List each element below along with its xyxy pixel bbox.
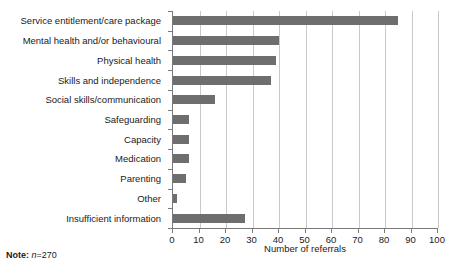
bar bbox=[173, 95, 215, 104]
bar-row bbox=[173, 169, 438, 189]
x-axis-tick bbox=[384, 229, 385, 233]
x-axis-tick bbox=[172, 229, 173, 233]
x-axis-tick bbox=[305, 229, 306, 233]
bar-row bbox=[173, 70, 438, 90]
bar bbox=[173, 115, 189, 124]
x-axis-tick bbox=[278, 229, 279, 233]
bar bbox=[173, 36, 279, 45]
bar bbox=[173, 194, 177, 203]
y-axis-label: Insufficient information bbox=[66, 213, 161, 224]
note-key: Note: bbox=[6, 250, 29, 260]
y-axis-label: Skills and independence bbox=[58, 75, 161, 86]
gridline bbox=[438, 11, 439, 228]
bar bbox=[173, 135, 189, 144]
y-axis-label: Mental health and/or behavioural bbox=[23, 35, 161, 46]
y-axis-label: Capacity bbox=[124, 134, 161, 145]
y-axis-label: Service entitlement/care package bbox=[21, 15, 161, 26]
x-axis-tick bbox=[252, 229, 253, 233]
bar-row bbox=[173, 90, 438, 110]
bar-row bbox=[173, 31, 438, 51]
y-axis-label: Medication bbox=[115, 153, 161, 164]
y-axis-label: Other bbox=[137, 193, 161, 204]
bar bbox=[173, 174, 186, 183]
x-axis-tick bbox=[331, 229, 332, 233]
x-axis-tick bbox=[411, 229, 412, 233]
bar-row bbox=[173, 149, 438, 169]
x-axis-tick bbox=[358, 229, 359, 233]
bar-row bbox=[173, 110, 438, 130]
plot-area bbox=[172, 11, 438, 229]
bar bbox=[173, 154, 189, 163]
bar bbox=[173, 214, 245, 223]
x-axis-title: Number of referrals bbox=[172, 243, 438, 254]
bar-row bbox=[173, 129, 438, 149]
bar-chart-figure: Service entitlement/care packageMental h… bbox=[0, 0, 465, 274]
y-axis-label: Social skills/communication bbox=[45, 94, 161, 105]
bar bbox=[173, 76, 271, 85]
x-axis-tick bbox=[437, 229, 438, 233]
bar bbox=[173, 56, 276, 65]
y-axis-label: Safeguarding bbox=[104, 114, 161, 125]
x-axis-tick bbox=[199, 229, 200, 233]
bar-row bbox=[173, 11, 438, 31]
y-axis-labels: Service entitlement/care packageMental h… bbox=[0, 11, 167, 228]
y-axis-label: Parenting bbox=[120, 173, 161, 184]
bar-rows bbox=[173, 11, 438, 228]
bar-row bbox=[173, 208, 438, 228]
bar-row bbox=[173, 189, 438, 209]
chart-note: Note: n=270 bbox=[6, 250, 57, 260]
y-axis-label: Physical health bbox=[97, 55, 161, 66]
note-n-value: =270 bbox=[37, 250, 57, 260]
bar-row bbox=[173, 50, 438, 70]
x-axis-tick bbox=[225, 229, 226, 233]
bar bbox=[173, 16, 398, 25]
